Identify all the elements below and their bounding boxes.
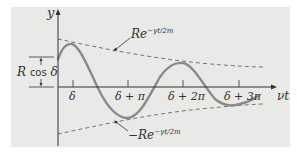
x-axis-label: νt (277, 90, 289, 102)
damped-oscillation-curve (58, 44, 258, 118)
rcos-delta-label: R cos δ (17, 66, 58, 78)
rcos-arrowhead-down-icon (40, 83, 43, 87)
upper-env-exponent: −γt/2m (147, 27, 173, 35)
tick-label-1: δ (69, 91, 76, 102)
tick-label-3: δ + 2π (168, 91, 205, 102)
upper-label-pointer (115, 38, 130, 50)
rcos-cos: cos (30, 67, 47, 78)
lower-envelope-label: −Re−γt/2m (128, 129, 181, 141)
tick-label-4: δ + 3π (224, 91, 261, 102)
y-axis-label: y (47, 6, 54, 19)
lower-env-exponent: −γt/2m (154, 128, 180, 136)
upper-envelope-curve (58, 39, 265, 67)
upper-envelope-label: Re−γt/2m (131, 28, 173, 40)
rcos-R: R (17, 65, 26, 79)
lower-env-base: −Re (128, 128, 154, 142)
y-axis-arrow-icon (56, 9, 61, 15)
rcos-arrowhead-up-icon (40, 58, 43, 62)
rcos-delta: δ (51, 65, 58, 79)
upper-env-base: Re (131, 27, 147, 41)
lower-label-pointer (116, 122, 128, 131)
tick-label-2: δ + π (115, 91, 145, 102)
